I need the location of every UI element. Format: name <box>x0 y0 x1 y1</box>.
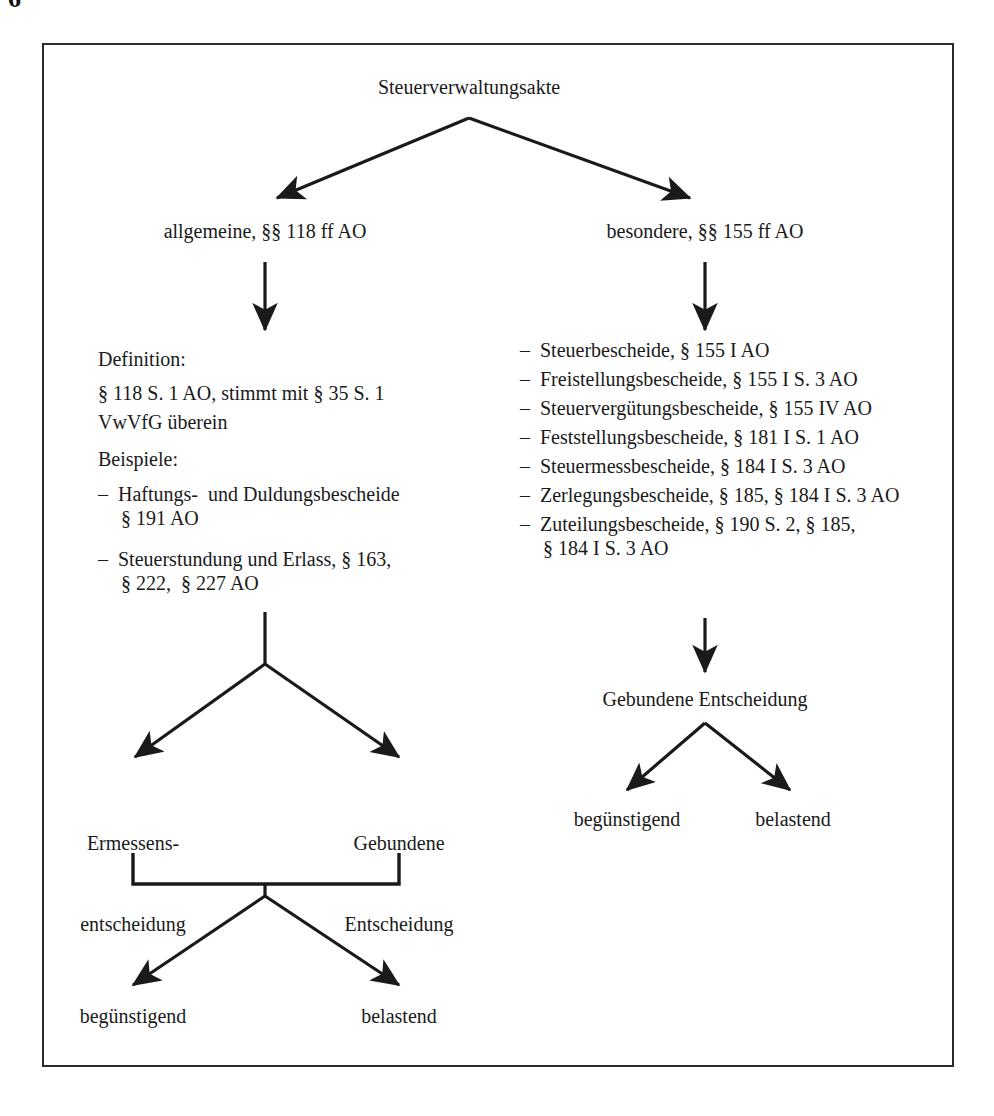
example-dash-2: – <box>98 549 118 569</box>
list-item-label: Steuerbescheide, § 155 I AO <box>540 340 769 360</box>
node-ermessensentscheidung-line1: Ermessens- <box>80 830 186 857</box>
list-item-continuation-label: § 184 I S. 3 AO <box>543 538 669 558</box>
node-beguenstigend-right: begünstigend <box>574 806 681 833</box>
example-dash-1: – <box>98 484 118 504</box>
list-item-label: Freistellungsbescheide, § 155 I S. 3 AO <box>540 369 858 389</box>
list-dash-icon: – <box>520 456 540 476</box>
list-dash-icon: – <box>520 427 540 447</box>
node-besondere-branch: besondere, §§ 155 ff AO <box>607 218 804 245</box>
label-beispiele-heading: Beispiele: <box>98 445 178 474</box>
list-dash-icon: – <box>520 340 540 360</box>
example-text-2-line2: § 222, § 227 AO <box>121 573 259 593</box>
list-item-label: Feststellungsbescheide, § 181 I S. 1 AO <box>540 427 859 447</box>
list-dash-icon: – <box>520 398 540 418</box>
node-gebundene-entscheidung-left-line2: Entscheidung <box>345 911 454 938</box>
text-definition-line2: VwVfG überein <box>98 408 227 437</box>
list-item: – Steuerbescheide, § 155 I AO <box>520 340 899 360</box>
list-item: – Zerlegungsbescheide, § 185, § 184 I S.… <box>520 485 899 505</box>
list-item-label: Steuermessbescheide, § 184 I S. 3 AO <box>540 456 846 476</box>
list-item: – Zuteilungsbescheide, § 190 S. 2, § 185… <box>520 514 899 534</box>
list-item: – Steuermessbescheide, § 184 I S. 3 AO <box>520 456 899 476</box>
node-gebundene-entscheidung-left-line1: Gebundene <box>345 830 454 857</box>
list-dash-icon: – <box>520 514 540 534</box>
node-belastend-left: belastend <box>361 1003 437 1030</box>
page-number: 6 <box>8 0 21 14</box>
diagram-page: 6 S <box>0 0 994 1116</box>
node-beguenstigend-left: begünstigend <box>80 1003 187 1030</box>
example-text-2-line1: Steuerstundung und Erlass, § 163, <box>118 549 391 569</box>
list-item-label: Zerlegungsbescheide, § 185, § 184 I S. 3… <box>540 485 899 505</box>
text-definition-line1: § 118 S. 1 AO, stimmt mit § 35 S. 1 <box>98 379 385 408</box>
list-item-continuation: § 184 I S. 3 AO <box>543 538 899 558</box>
list-item: – Feststellungsbescheide, § 181 I S. 1 A… <box>520 427 899 447</box>
node-steuerverwaltungsakte: Steuerverwaltungsakte <box>378 74 560 101</box>
list-dash-icon: – <box>520 369 540 389</box>
list-item: – Steuervergütungsbescheide, § 155 IV AO <box>520 398 899 418</box>
example-text-1-line1: Haftungs- und Duldungsbescheide <box>118 484 400 504</box>
list-item-label: Zuteilungsbescheide, § 190 S. 2, § 185, <box>540 514 856 534</box>
example-text-1-line2: § 191 AO <box>121 508 199 528</box>
node-gebundene-entscheidung-left: Gebundene Entscheidung <box>345 776 454 992</box>
node-belastend-right: belastend <box>755 806 831 833</box>
example-item-1: – Haftungs- und Duldungsbescheide § 191 … <box>98 484 400 528</box>
node-allgemeine-branch: allgemeine, §§ 118 ff AO <box>164 218 367 245</box>
node-gebundene-entscheidung-right: Gebundene Entscheidung <box>603 686 808 713</box>
example-item-2: – Steuerstundung und Erlass, § 163, § 22… <box>98 549 391 593</box>
list-item-label: Steuervergütungsbescheide, § 155 IV AO <box>540 398 872 418</box>
node-ermessensentscheidung-line2: entscheidung <box>80 911 186 938</box>
list-dash-icon: – <box>520 485 540 505</box>
besondere-list: – Steuerbescheide, § 155 I AO – Freistel… <box>520 340 899 558</box>
label-definition-heading: Definition: <box>98 345 186 374</box>
node-ermessensentscheidung: Ermessens- entscheidung <box>80 776 186 992</box>
list-item: – Freistellungsbescheide, § 155 I S. 3 A… <box>520 369 899 389</box>
